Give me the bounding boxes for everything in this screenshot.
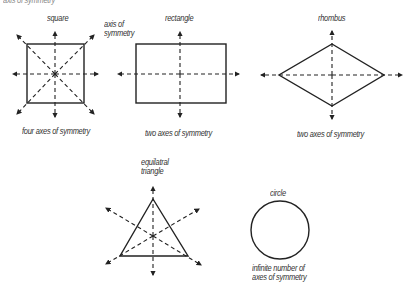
square-shape [13,32,98,117]
rhombus-caption: two axes of symmetry [297,130,364,139]
axis-annotation-line2: symmetry [104,29,134,38]
rhombus-shape [261,31,402,119]
rectangle-shape [118,32,239,117]
rhombus-label: rhombus [318,14,345,23]
circle-shape [251,201,309,259]
square-caption: four axes of symmetry [22,127,90,136]
rectangle-label: rectangle [165,14,193,23]
triangle-label-line2: triangle [141,167,163,176]
triangle-shape [106,187,201,275]
square-label: square [47,14,68,23]
circle-label: circle [270,189,286,198]
circle-caption-line2: axes of symmetry [252,273,306,282]
rectangle-caption: two axes of symmetry [145,129,212,138]
